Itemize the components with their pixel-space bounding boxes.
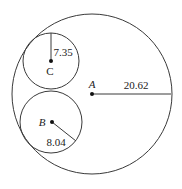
circle-b-label: B bbox=[39, 116, 46, 128]
circle-c-center-dot bbox=[49, 59, 53, 63]
circle-a-label: A bbox=[88, 78, 96, 90]
circle-c-radius-value: 7.35 bbox=[53, 46, 73, 58]
circle-a-center-dot bbox=[90, 92, 94, 96]
circle-a-group: A 20.62 bbox=[12, 14, 172, 174]
circle-b-center-dot bbox=[50, 120, 54, 124]
circle-c-label: C bbox=[46, 65, 53, 77]
circles-diagram: A 20.62 C 7.35 B 8.04 bbox=[0, 0, 182, 189]
circle-b-radius-value: 8.04 bbox=[46, 136, 66, 148]
circle-a-radius-value: 20.62 bbox=[124, 79, 149, 91]
circle-c-group: C 7.35 bbox=[23, 33, 79, 89]
circle-b-group: B 8.04 bbox=[20, 91, 82, 153]
